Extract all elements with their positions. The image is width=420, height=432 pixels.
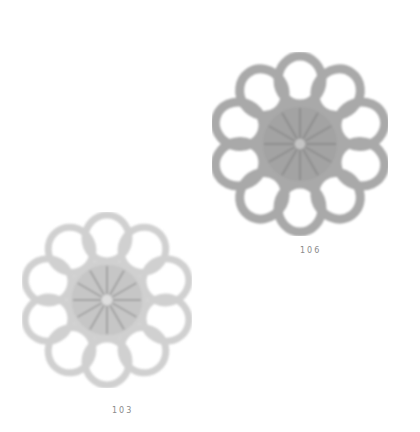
motif-103-caption: 103 — [112, 406, 133, 415]
crochet-motif-106-image — [212, 52, 388, 236]
motif-106-caption: 106 — [300, 246, 321, 255]
crochet-motif-103-image — [22, 212, 192, 388]
motif-103-graphic — [22, 212, 192, 388]
motif-106-graphic — [212, 52, 388, 236]
